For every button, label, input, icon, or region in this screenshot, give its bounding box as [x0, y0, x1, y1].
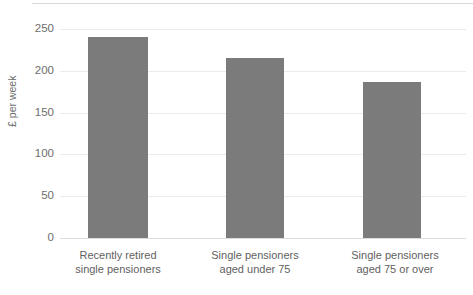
y-tick-label: 250: [8, 23, 54, 35]
x-label-line1: Single pensioners: [211, 249, 298, 261]
x-label-0: Recently retired single pensioners: [55, 248, 181, 276]
y-tick-label: 100: [8, 149, 54, 161]
x-label-2: Single pensioners aged 75 or over: [329, 248, 461, 276]
bar-chart: £ per week 0 50 100 150 200 250 Recently…: [0, 0, 473, 295]
bar-single-pensioners-aged-under-75: [226, 58, 284, 238]
y-axis-ticks: 0 50 100 150 200 250: [0, 29, 54, 238]
gridline-250: [60, 29, 466, 30]
x-label-line1: Recently retired: [79, 249, 156, 261]
gridline-0: [60, 238, 466, 239]
x-label-line2: single pensioners: [55, 262, 181, 276]
y-tick-label: 200: [8, 65, 54, 77]
plot-area: [60, 29, 466, 238]
y-tick-label: 50: [8, 190, 54, 202]
x-label-line2: aged 75 or over: [329, 262, 461, 276]
x-label-line1: Single pensioners: [351, 249, 438, 261]
top-divider: [32, 3, 473, 4]
bar-single-pensioners-aged-75-or-over: [363, 82, 421, 238]
y-tick-label: 150: [8, 107, 54, 119]
bar-recently-retired-single-pensioners: [88, 37, 148, 238]
y-tick-label: 0: [8, 232, 54, 244]
x-label-line2: aged under 75: [192, 262, 318, 276]
x-axis-labels: Recently retired single pensioners Singl…: [60, 248, 466, 288]
x-label-1: Single pensioners aged under 75: [192, 248, 318, 276]
